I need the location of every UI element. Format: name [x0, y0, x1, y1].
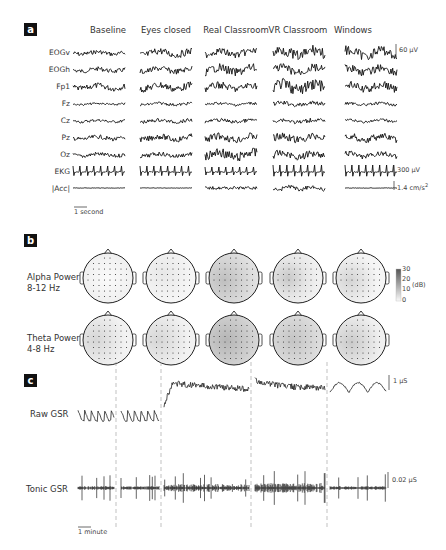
tonic-gsr-trace [78, 475, 114, 500]
segment-separators [116, 362, 327, 530]
tonic-gsr-trace [164, 473, 249, 503]
tonic-gsr-trace [330, 474, 386, 501]
scale-label-1us: 1 µS [393, 377, 407, 385]
scale-label-002us: 0.02 µS [392, 476, 417, 484]
tonic-gsr-trace [255, 471, 325, 505]
raw-gsr-trace [121, 411, 159, 422]
raw-gsr-trace [78, 410, 114, 421]
gsr-traces-panel-c [0, 0, 446, 550]
raw-gsr-trace [330, 382, 386, 392]
tonic-gsr-trace [121, 475, 159, 501]
time-label-1min: 1 minute [78, 528, 107, 536]
raw-gsr-trace [255, 378, 325, 391]
raw-gsr-trace [164, 381, 249, 407]
